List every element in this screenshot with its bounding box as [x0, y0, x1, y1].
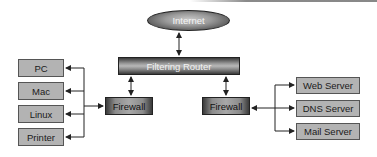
firewall-left-node: Firewall [105, 97, 153, 115]
firewall-right-node: Firewall [202, 97, 250, 115]
filtering-router-node: Filtering Router [118, 57, 240, 75]
internet-label: Internet [172, 15, 204, 26]
server-mail-node: Mail Server [296, 123, 360, 140]
client-label: PC [34, 63, 47, 74]
router-label: Filtering Router [147, 61, 212, 72]
firewall-right-label: Firewall [210, 101, 243, 112]
server-web-node: Web Server [296, 77, 360, 94]
client-mac-node: Mac [18, 82, 64, 100]
server-dns-node: DNS Server [296, 100, 360, 117]
client-label: Linux [30, 109, 53, 120]
client-linux-node: Linux [18, 105, 64, 123]
server-label: Web Server [303, 80, 353, 91]
server-label: DNS Server [303, 103, 354, 114]
client-pc-node: PC [18, 59, 64, 77]
client-label: Printer [27, 132, 55, 143]
firewall-left-label: Firewall [113, 101, 146, 112]
internet-node: Internet [147, 10, 230, 31]
client-label: Mac [32, 86, 50, 97]
server-label: Mail Server [304, 126, 352, 137]
client-printer-node: Printer [18, 128, 64, 146]
